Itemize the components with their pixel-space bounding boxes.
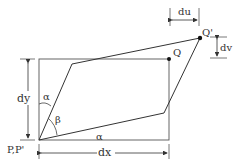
q-prime-label: Q' xyxy=(202,27,213,38)
alpha-top-arc xyxy=(39,103,51,106)
du-label: du xyxy=(178,6,191,17)
dv-label: dv xyxy=(220,42,232,53)
p-label: P,P' xyxy=(7,144,24,155)
original-square xyxy=(39,59,169,140)
deformation-diagram: dy dx du dv Q Q' P,P' α β α xyxy=(0,0,240,159)
beta-label: β xyxy=(55,114,61,125)
point-q xyxy=(167,57,171,61)
dx-label: dx xyxy=(98,146,112,159)
q-label: Q xyxy=(173,47,181,58)
alpha-bottom-label: α xyxy=(96,131,103,142)
dy-label: dy xyxy=(17,92,31,105)
alpha-top-label: α xyxy=(43,91,50,102)
